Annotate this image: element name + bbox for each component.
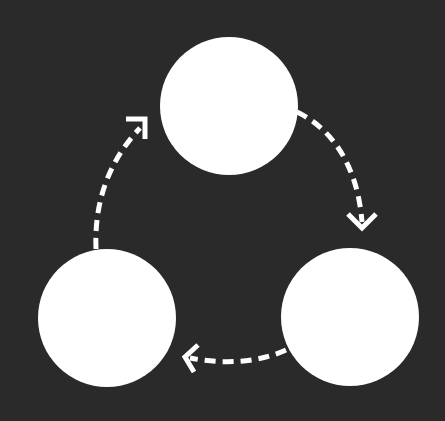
edge-bottom-right-to-bottom-left [185, 345, 286, 372]
edge-bottom-left-to-top [96, 119, 145, 249]
dashed-connector [297, 112, 362, 222]
arrowhead-up-right-icon [126, 119, 145, 139]
dashed-connector [190, 350, 286, 362]
node-bottom-right [281, 248, 419, 386]
node-bottom-left [38, 249, 176, 387]
circle-node [38, 249, 176, 387]
diagram-svg [0, 0, 445, 421]
edge-top-to-bottom-right [297, 112, 376, 228]
circle-node [281, 248, 419, 386]
circle-node [160, 37, 298, 175]
dashed-connector [96, 128, 140, 249]
cycle-diagram [0, 0, 445, 421]
node-top [160, 37, 298, 175]
